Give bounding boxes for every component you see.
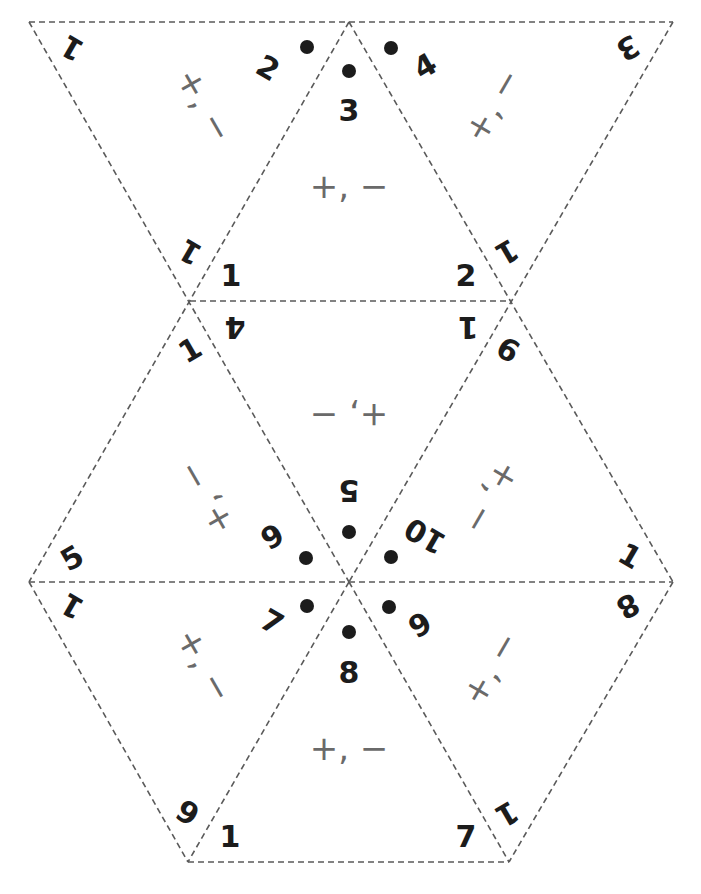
t5-label-a: 1 — [172, 330, 208, 371]
t2-label-c: 2 — [456, 258, 477, 293]
t4-label-a: 4 — [225, 310, 246, 345]
t3-label-a: 4 — [407, 46, 443, 87]
edge-diag-5 — [29, 582, 188, 862]
t5-label-c: 6 — [254, 516, 290, 557]
t8-label-b: 1 — [220, 819, 241, 854]
t9-dot — [382, 600, 396, 614]
flexagon-net-diagram: 1 2 1 +, − 3 1 2 +, − 4 3 1 +, − 4 1 5 +… — [0, 0, 701, 894]
t3-label-c: 1 — [489, 232, 525, 273]
t9-label-b: 8 — [610, 586, 646, 627]
t6-ops: +, − — [455, 454, 529, 542]
t7-ops: +, − — [168, 621, 242, 709]
t1-label-c: 1 — [172, 232, 208, 273]
t8-label-c: 7 — [456, 819, 477, 854]
t9-ops: +, − — [453, 624, 527, 712]
t6-dot — [384, 550, 398, 564]
t4-ops: +, − — [310, 396, 389, 436]
triangle-t1: 1 2 1 +, − — [54, 28, 314, 273]
t5-label-b: 5 — [54, 538, 90, 579]
t3-ops: +, − — [455, 61, 529, 149]
t2-dot — [342, 64, 356, 78]
t5-ops: +, − — [168, 454, 242, 542]
t8-label-a: 8 — [339, 655, 360, 690]
t1-label-a: 1 — [54, 28, 90, 69]
t4-dot — [342, 525, 356, 539]
t3-dot — [384, 41, 398, 55]
triangle-t9: 9 8 1 +, − — [382, 586, 646, 835]
triangle-t5: 1 5 6 +, − — [54, 330, 313, 579]
t6-label-a: 6 — [490, 330, 526, 371]
t5-dot — [299, 551, 313, 565]
t4-label-b: 1 — [458, 310, 479, 345]
t2-ops: +, − — [310, 166, 389, 206]
triangle-t3: 4 3 1 +, − — [384, 28, 646, 273]
t7-dot — [300, 599, 314, 613]
t7-label-a: 1 — [54, 586, 90, 627]
t6-label-c: 1 — [612, 536, 648, 577]
triangle-t7: 1 7 6 +, − — [54, 586, 314, 833]
t1-ops: +, − — [168, 61, 242, 149]
t4-label-c: 5 — [339, 473, 360, 508]
t1-label-b: 2 — [250, 48, 286, 89]
t3-label-b: 3 — [610, 28, 646, 69]
t9-label-c: 1 — [489, 794, 525, 835]
t6-label-b: 10 — [398, 510, 452, 561]
triangle-t6: 6 10 1 +, − — [384, 330, 648, 577]
edge-diag-8 — [509, 582, 673, 862]
t2-label-b: 1 — [221, 258, 242, 293]
t9-label-a: 9 — [402, 605, 438, 646]
t8-dot — [342, 625, 356, 639]
t2-label-a: 3 — [339, 93, 360, 128]
t8-ops: +, − — [310, 728, 389, 768]
t7-label-b: 7 — [254, 602, 290, 643]
t1-dot — [300, 40, 314, 54]
t7-label-c: 6 — [170, 792, 206, 833]
